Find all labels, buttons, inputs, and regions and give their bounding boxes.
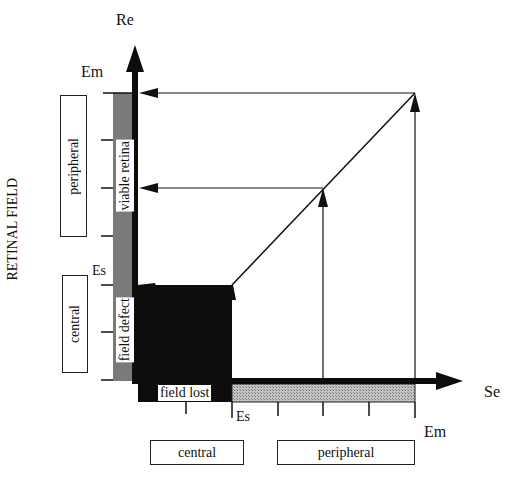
- x-axis-label: Se: [484, 384, 500, 400]
- stimulus-central-box: central: [150, 440, 244, 465]
- y-axis-max-label: Em: [81, 64, 103, 80]
- retinal-central-box: central: [62, 275, 88, 373]
- field-lost-label: field lost: [158, 385, 211, 401]
- retinal-peripheral-box: peripheral: [60, 95, 87, 237]
- x-axis-threshold-label: Es: [236, 410, 250, 424]
- y-axis-title: RETINAL FIELD: [6, 178, 20, 281]
- diagram-canvas: [0, 0, 515, 495]
- viable-retina-label: viable retina: [116, 140, 134, 212]
- stimulus-peripheral-box: peripheral: [277, 440, 415, 465]
- y-axis-label: Re: [116, 12, 134, 28]
- stimulus-central-label: central: [178, 445, 216, 461]
- retinal-peripheral-label: peripheral: [66, 138, 82, 195]
- y-axis-threshold-label: Es: [92, 264, 106, 278]
- stimulus-peripheral-label: peripheral: [318, 445, 375, 461]
- retinal-central-label: central: [67, 305, 83, 343]
- field-defect-label: field defect: [116, 297, 134, 362]
- x-axis-max-label: Em: [424, 424, 446, 440]
- stimulus-hatched-band: [232, 384, 415, 402]
